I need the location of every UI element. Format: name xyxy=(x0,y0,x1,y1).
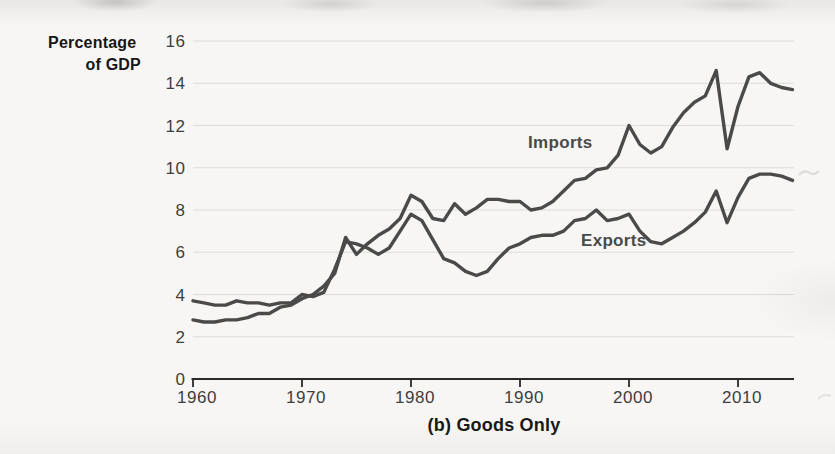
y-tick-labels-group: 0246810121416 xyxy=(166,32,186,389)
x-tick-label-1970: 1970 xyxy=(286,388,326,407)
y-axis-title-line2: of GDP xyxy=(86,56,142,73)
y-tick-label-6: 6 xyxy=(176,243,186,262)
y-tick-label-2: 2 xyxy=(176,328,186,347)
x-tick-label-1980: 1980 xyxy=(395,388,435,407)
scan-smudge xyxy=(799,171,819,175)
y-axis-title-line1: Percentage xyxy=(48,34,136,51)
y-tick-label-10: 10 xyxy=(166,159,186,178)
y-tick-label-4: 4 xyxy=(176,286,186,305)
data-series-group: ImportsExports xyxy=(193,71,793,322)
y-tick-label-16: 16 xyxy=(166,32,186,51)
y-tick-label-0: 0 xyxy=(176,370,186,389)
imports-line xyxy=(193,71,793,322)
y-tick-label-14: 14 xyxy=(166,74,186,93)
chart-caption: (b) Goods Only xyxy=(428,415,561,435)
x-tick-label-2000: 2000 xyxy=(613,388,653,407)
x-tick-labels-group: 196019701980199020002010 xyxy=(177,388,762,407)
x-tick-label-2010: 2010 xyxy=(722,388,762,407)
exports-series-label: Exports xyxy=(581,231,646,250)
x-tick-label-1990: 1990 xyxy=(504,388,544,407)
y-axis-title: Percentage of GDP xyxy=(48,34,141,73)
imports-series-label: Imports xyxy=(528,133,592,152)
x-tick-label-1960: 1960 xyxy=(177,388,217,407)
scan-smudge xyxy=(818,395,831,399)
y-tick-label-8: 8 xyxy=(176,201,186,220)
chart-svg: 0246810121416 196019701980199020002010 I… xyxy=(0,0,835,454)
chart-figure: 0246810121416 196019701980199020002010 I… xyxy=(0,0,835,454)
exports-line xyxy=(193,174,793,305)
y-tick-label-12: 12 xyxy=(166,117,186,136)
gridlines-group xyxy=(193,41,794,337)
x-axis-group xyxy=(192,379,795,387)
